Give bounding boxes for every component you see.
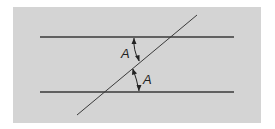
parallel-lines-transversal-diagram: A A [0, 0, 275, 129]
upper-angle-label: A [120, 46, 130, 61]
lower-angle-label: A [142, 72, 152, 87]
